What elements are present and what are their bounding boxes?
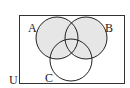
label-a: A [28,21,37,35]
label-c: C [45,71,53,85]
label-b: B [105,21,113,35]
venn-diagram: A B C U [0,0,130,88]
label-u: U [9,73,18,87]
